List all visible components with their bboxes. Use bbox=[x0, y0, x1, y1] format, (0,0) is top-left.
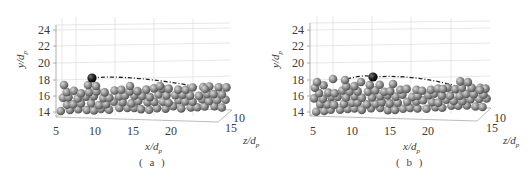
plot-b-canvas bbox=[265, 0, 531, 179]
y-axis-label: y/dp bbox=[269, 51, 284, 68]
tracked-particle-b bbox=[368, 72, 377, 81]
tracked-particle-a bbox=[87, 73, 96, 82]
y-tick-22: 22 bbox=[284, 40, 304, 52]
y-tick-24: 24 bbox=[284, 24, 304, 36]
y-tick-22: 22 bbox=[30, 40, 50, 52]
x-tick-10: 10 bbox=[346, 125, 358, 137]
y-tick-20: 20 bbox=[30, 57, 50, 69]
z-axis-label: z/dp bbox=[243, 134, 259, 149]
y-axis-label: y/dp bbox=[14, 51, 29, 68]
caption-b: ( b ) bbox=[396, 156, 424, 168]
y-tick-16: 16 bbox=[30, 90, 50, 102]
x-tick-5: 5 bbox=[310, 125, 316, 137]
z-tick-15: 15 bbox=[486, 122, 498, 134]
y-tick-14: 14 bbox=[284, 106, 304, 118]
x-tick-15: 15 bbox=[127, 125, 139, 137]
bed-particles-a bbox=[57, 81, 231, 116]
x-tick-20: 20 bbox=[165, 125, 177, 137]
bed-particles-b bbox=[310, 75, 491, 116]
x-tick-15: 15 bbox=[384, 125, 396, 137]
y-tick-18: 18 bbox=[284, 74, 304, 86]
panel-a: 24 22 20 18 16 14 y/dp 5 10 15 20 10 15 … bbox=[0, 0, 265, 179]
y-tick-14: 14 bbox=[30, 106, 50, 118]
x-tick-5: 5 bbox=[53, 125, 59, 137]
y-tick-18: 18 bbox=[30, 74, 50, 86]
y-tick-16: 16 bbox=[284, 90, 304, 102]
x-axis-label: x/dp bbox=[403, 140, 420, 155]
x-axis-label: x/dp bbox=[145, 140, 162, 155]
y-tick-24: 24 bbox=[30, 24, 50, 36]
z-axis-label: z/dp bbox=[503, 134, 519, 149]
x-tick-20: 20 bbox=[422, 125, 434, 137]
y-tick-20: 20 bbox=[284, 57, 304, 69]
z-tick-15: 15 bbox=[225, 122, 237, 134]
x-tick-10: 10 bbox=[89, 125, 101, 137]
panel-b: 24 22 20 18 16 14 y/dp 5 10 15 20 10 15 … bbox=[265, 0, 531, 179]
caption-a: ( a ) bbox=[139, 156, 167, 168]
